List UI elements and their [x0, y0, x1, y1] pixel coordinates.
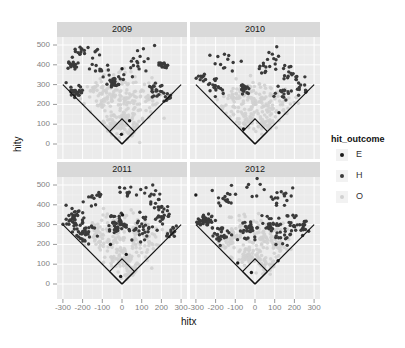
- data-point-h: [276, 85, 279, 88]
- data-point-o: [151, 99, 155, 103]
- data-point-h: [76, 210, 79, 213]
- data-point-h: [231, 61, 234, 64]
- data-point-h: [132, 57, 135, 60]
- data-point-o: [269, 99, 273, 103]
- data-point-h: [87, 242, 90, 245]
- data-point-o: [133, 90, 137, 94]
- data-point-h: [136, 61, 139, 64]
- data-point-o: [276, 94, 280, 98]
- data-point-h: [125, 223, 128, 226]
- data-point-o: [127, 113, 131, 117]
- data-point-o: [98, 77, 102, 81]
- data-point-h: [94, 203, 97, 206]
- data-point-h: [81, 89, 84, 92]
- data-point-h: [160, 215, 163, 218]
- data-point-h: [65, 222, 68, 225]
- facet-strip-2012: 2012: [190, 162, 320, 177]
- data-point-h: [135, 193, 138, 196]
- facet-panel-2010: 2010: [190, 22, 320, 159]
- data-point-h: [280, 190, 283, 193]
- data-point-o: [134, 243, 138, 247]
- data-point-h: [87, 195, 90, 198]
- data-point-o: [145, 95, 149, 99]
- data-point-o: [94, 81, 98, 85]
- data-point-h: [293, 216, 296, 219]
- data-point-h: [167, 215, 170, 218]
- data-point-h: [122, 73, 125, 76]
- data-point-h: [260, 214, 263, 217]
- data-point-h: [73, 222, 76, 225]
- data-point-o: [137, 254, 141, 258]
- data-point-h: [154, 81, 157, 84]
- plot-area-2012: [190, 177, 320, 299]
- legend-key-e: [336, 149, 348, 161]
- data-point-o: [95, 89, 99, 93]
- data-point-h: [231, 69, 234, 72]
- data-point-h: [261, 222, 264, 225]
- data-point-h: [166, 92, 169, 95]
- data-point-h: [88, 235, 91, 238]
- data-point-h: [247, 92, 250, 95]
- data-point-o: [150, 232, 154, 236]
- data-point-o: [242, 243, 246, 247]
- data-point-h: [291, 186, 294, 189]
- data-point-h: [152, 193, 155, 196]
- data-point-h: [137, 229, 140, 232]
- data-point-o: [99, 248, 103, 252]
- data-point-o: [92, 88, 96, 92]
- data-point-o: [109, 114, 113, 118]
- data-point-o: [131, 247, 135, 251]
- data-point-o: [230, 227, 234, 231]
- data-point-o: [238, 218, 242, 222]
- data-point-h: [296, 88, 299, 91]
- data-point-o: [270, 112, 274, 116]
- data-point-h: [154, 218, 157, 221]
- data-point-h: [249, 220, 252, 223]
- data-point-h: [284, 237, 287, 240]
- data-point-o: [113, 114, 117, 118]
- data-point-o: [273, 251, 277, 255]
- data-point-h: [146, 57, 149, 60]
- data-point-h: [160, 84, 163, 87]
- data-point-h: [247, 183, 250, 186]
- data-point-h: [105, 83, 108, 86]
- data-point-h: [138, 225, 141, 228]
- data-point-h: [267, 227, 270, 230]
- data-point-h: [73, 210, 76, 213]
- data-point-h: [274, 92, 277, 95]
- data-point-e: [128, 119, 131, 122]
- data-point-o: [258, 257, 262, 261]
- data-point-h: [219, 234, 222, 237]
- data-point-h: [250, 226, 253, 229]
- data-point-h: [221, 226, 224, 229]
- data-point-o: [100, 219, 104, 223]
- data-point-h: [113, 215, 116, 218]
- data-point-h: [136, 49, 139, 52]
- data-point-o: [161, 228, 165, 232]
- data-point-h: [281, 242, 284, 245]
- data-point-o: [253, 232, 257, 236]
- data-point-h: [77, 84, 80, 87]
- data-point-h: [81, 211, 84, 214]
- data-point-h: [92, 197, 95, 200]
- data-point-h: [273, 62, 276, 65]
- data-point-h: [64, 204, 67, 207]
- data-point-h: [93, 50, 96, 53]
- legend-key-h: [336, 170, 348, 182]
- data-point-o: [232, 113, 236, 117]
- data-point-h: [210, 214, 213, 217]
- data-point-o: [154, 103, 158, 107]
- data-point-h: [107, 224, 110, 227]
- data-point-h: [217, 239, 220, 242]
- data-point-o: [137, 119, 141, 123]
- data-point-o: [251, 81, 255, 85]
- data-point-h: [234, 193, 237, 196]
- data-point-o: [100, 99, 104, 103]
- data-point-h: [119, 77, 122, 80]
- data-point-o: [131, 112, 135, 116]
- data-point-h: [266, 58, 269, 61]
- data-point-h: [141, 232, 144, 235]
- data-point-h: [216, 227, 219, 230]
- data-point-h: [151, 183, 154, 186]
- data-point-o: [126, 83, 130, 87]
